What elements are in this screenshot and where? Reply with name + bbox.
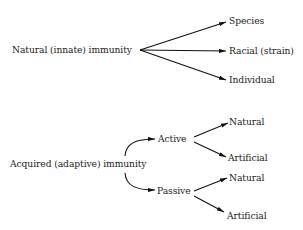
individual-label: Individual: [229, 75, 275, 84]
acquired-immunity-label: Acquired (adaptive) immunity: [10, 159, 146, 168]
racial-strain-label: Racial (strain): [229, 46, 294, 55]
active-label: Active: [158, 134, 186, 143]
arrow-active-artificial: [194, 142, 226, 157]
active-artificial-label: Artificial: [228, 153, 268, 162]
natural-immunity-label: Natural (innate) immunity: [12, 45, 132, 54]
arrow-to-individual: [140, 50, 226, 80]
species-label: Species: [229, 16, 264, 25]
arrow-layer: [0, 0, 303, 230]
arrow-active-natural: [194, 123, 228, 137]
arrow-to-racial: [140, 50, 226, 51]
arrow-passive-artificial: [194, 196, 224, 212]
arrow-to-species: [140, 22, 226, 50]
passive-artificial-label: Artificial: [227, 211, 267, 220]
passive-label: Passive: [157, 186, 191, 195]
arrow-passive-natural: [194, 178, 227, 191]
arrow-to-active: [125, 139, 155, 156]
natural-arrows: [140, 22, 226, 80]
passive-natural-label: Natural: [229, 173, 264, 182]
arrow-to-passive: [125, 173, 155, 190]
active-natural-label: Natural: [229, 117, 264, 126]
